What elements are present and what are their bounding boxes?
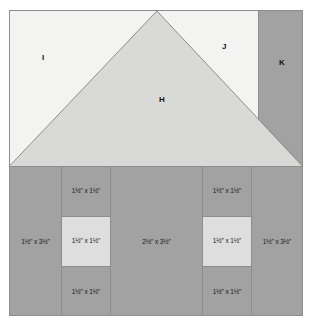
roof-section: I H J K	[10, 11, 302, 166]
measurement-label: 2½" x 3½"	[142, 239, 171, 246]
column-inner-left: 1½" x 1½" 1½" x 1½" 1½" x 1½"	[61, 167, 111, 316]
cell-right-strip: 1½" x 3½"	[252, 167, 302, 316]
measurement-label: 1½" x 1½"	[72, 289, 101, 296]
column-center: 2½" x 3½"	[111, 167, 202, 316]
wall-section: 1½" x 3½" 1½" x 1½" 1½" x 1½" 1½" x 1½" …	[10, 167, 302, 316]
column-inner-right: 1½" x 1½" 1½" x 1½" 1½" x 1½"	[202, 167, 252, 316]
measurement-label: 1½" x 3½"	[21, 239, 50, 246]
cell-center-panel: 2½" x 3½"	[111, 167, 202, 316]
measurement-label: 1½" x 1½"	[213, 188, 242, 195]
block-frame: I H J K 1½" x 3½" 1½" x 1½" 1½" x 1½"	[9, 10, 303, 316]
measurement-label: 1½" x 3½"	[263, 239, 292, 246]
piece-label-h: H	[159, 95, 165, 104]
column-left: 1½" x 3½"	[10, 167, 61, 316]
piece-label-j: J	[222, 42, 227, 51]
measurement-label: 1½" x 1½"	[213, 238, 242, 245]
piece-label-i: I	[42, 53, 44, 62]
cell-inner-right-top: 1½" x 1½"	[203, 167, 251, 217]
cell-inner-left-bottom: 1½" x 1½"	[62, 267, 110, 316]
quilt-block-diagram: I H J K 1½" x 3½" 1½" x 1½" 1½" x 1½"	[0, 0, 311, 323]
measurement-label: 1½" x 1½"	[72, 188, 101, 195]
piece-label-k: K	[279, 58, 285, 67]
cell-inner-left-middle: 1½" x 1½"	[62, 217, 110, 267]
measurement-label: 1½" x 1½"	[72, 238, 101, 245]
column-right: 1½" x 3½"	[252, 167, 302, 316]
cell-inner-right-middle: 1½" x 1½"	[203, 217, 251, 267]
cell-left-strip: 1½" x 3½"	[10, 167, 61, 316]
cell-inner-left-top: 1½" x 1½"	[62, 167, 110, 217]
measurement-label: 1½" x 1½"	[213, 289, 242, 296]
cell-inner-right-bottom: 1½" x 1½"	[203, 267, 251, 316]
